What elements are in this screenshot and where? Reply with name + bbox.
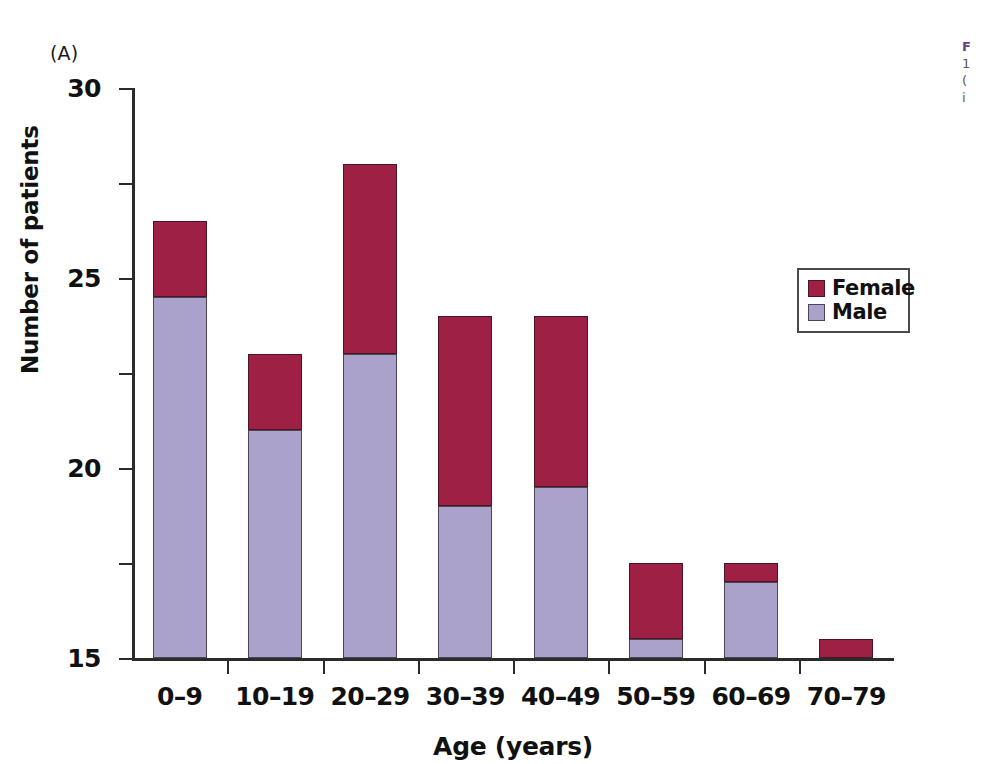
y-tick: 10 <box>119 468 132 470</box>
x-tick <box>513 661 515 674</box>
x-tick-label: 50–59 <box>616 682 695 711</box>
chart-page: (A) Number of patients 051015202530 0–91… <box>0 0 986 764</box>
x-tick <box>799 661 801 674</box>
legend-swatch-male-icon <box>808 304 825 321</box>
bar-segment-male[interactable] <box>153 297 207 658</box>
chart-legend: Female Male <box>797 268 910 333</box>
y-tick: 30 <box>119 88 132 90</box>
y-tick: 0 <box>119 658 132 660</box>
x-tick-label: 20–29 <box>331 682 410 711</box>
y-tick-label: 15 <box>67 644 101 673</box>
bar-segment-female[interactable] <box>534 316 588 487</box>
x-tick-label: 30–39 <box>426 682 505 711</box>
bar-group[interactable] <box>724 563 778 658</box>
x-tick <box>704 661 706 674</box>
y-tick-label: 20 <box>67 454 101 483</box>
y-axis-line <box>132 88 135 661</box>
x-tick <box>418 661 420 674</box>
y-tick-label: 25 <box>67 264 101 293</box>
y-tick: 15 <box>119 373 132 375</box>
x-tick-label: 10–19 <box>235 682 314 711</box>
caption-line-3: i <box>962 89 986 106</box>
caption-line-1: 1 <box>962 55 986 72</box>
legend-swatch-female-icon <box>808 280 825 297</box>
bar-group[interactable] <box>438 316 492 658</box>
bar-group[interactable] <box>343 164 397 658</box>
y-tick: 25 <box>119 183 132 185</box>
y-tick: 5 <box>119 563 132 565</box>
bar-segment-female[interactable] <box>438 316 492 506</box>
legend-label-male: Male <box>832 302 887 323</box>
bar-group[interactable] <box>629 563 683 658</box>
bar-segment-male[interactable] <box>724 582 778 658</box>
legend-item-male[interactable]: Male <box>808 300 899 324</box>
bar-segment-male[interactable] <box>629 639 683 658</box>
bar-segment-female[interactable] <box>724 563 778 582</box>
bar-group[interactable] <box>534 316 588 658</box>
x-axis-title: Age (years) <box>132 732 894 761</box>
x-tick-label: 40–49 <box>521 682 600 711</box>
bar-segment-female[interactable] <box>819 639 873 658</box>
x-tick-label: 70–79 <box>807 682 886 711</box>
legend-label-female: Female <box>832 278 915 299</box>
bar-segment-male[interactable] <box>534 487 588 658</box>
plot-area: 051015202530 0–910–1920–2930–3940–4950–5… <box>132 88 894 661</box>
legend-item-female[interactable]: Female <box>808 276 899 300</box>
x-tick <box>608 661 610 674</box>
bar-segment-female[interactable] <box>153 221 207 297</box>
bar-group[interactable] <box>819 639 873 658</box>
x-tick-label: 60–69 <box>712 682 791 711</box>
panel-letter: (A) <box>50 42 78 64</box>
bar-segment-female[interactable] <box>248 354 302 430</box>
bar-group[interactable] <box>248 354 302 658</box>
bar-segment-male[interactable] <box>438 506 492 658</box>
bar-group[interactable] <box>153 221 207 658</box>
caption-line-2: ( <box>962 72 986 89</box>
x-tick <box>227 661 229 674</box>
bar-segment-female[interactable] <box>629 563 683 639</box>
bar-segment-male[interactable] <box>343 354 397 658</box>
bar-segment-male[interactable] <box>248 430 302 658</box>
bar-segment-female[interactable] <box>343 164 397 354</box>
x-tick-label: 0–9 <box>157 682 203 711</box>
y-tick-label: 30 <box>67 74 101 103</box>
figure-caption-clipped: F 1 ( i <box>962 38 986 106</box>
y-tick: 20 <box>119 278 132 280</box>
x-tick <box>323 661 325 674</box>
caption-title: F <box>962 38 986 55</box>
y-axis-title: Number of patients <box>17 125 43 374</box>
